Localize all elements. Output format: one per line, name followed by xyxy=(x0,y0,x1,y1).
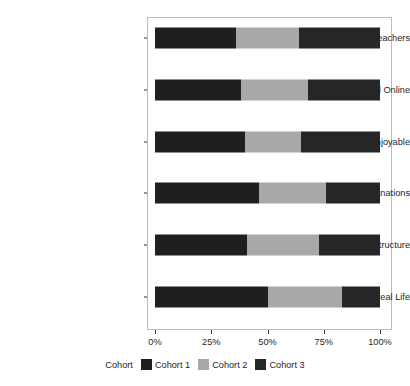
bar-segment xyxy=(241,80,309,101)
bar-row xyxy=(155,28,380,49)
bar-segment xyxy=(155,235,247,256)
y-axis-tick xyxy=(144,90,147,91)
legend-title: Cohort xyxy=(105,360,133,370)
bar-row xyxy=(155,183,380,204)
bar-segment xyxy=(155,28,236,49)
bar-segment xyxy=(155,80,241,101)
bar-segment xyxy=(155,287,268,308)
bar-segment xyxy=(319,235,380,256)
bar-segment xyxy=(342,287,380,308)
bar-segment xyxy=(301,132,380,153)
legend-swatch-icon xyxy=(198,359,209,370)
y-axis-tick xyxy=(144,245,147,246)
bar-segment xyxy=(236,28,299,49)
y-axis-tick xyxy=(144,142,147,143)
legend-item-label: Cohort 1 xyxy=(155,360,190,370)
x-axis-label: 100% xyxy=(368,336,392,348)
bar-row xyxy=(155,132,380,153)
bar-segment xyxy=(259,183,327,204)
bar-segment xyxy=(326,183,380,204)
legend-swatch-icon xyxy=(141,359,152,370)
stacked-bar-chart: Great/Supportive TeachersSupport Off and… xyxy=(0,0,410,386)
chart-legend: Cohort Cohort 1Cohort 2Cohort 3 xyxy=(0,359,410,370)
bar-segment xyxy=(299,28,380,49)
bar-row xyxy=(155,80,380,101)
plot-panel xyxy=(147,17,392,330)
bar-segment xyxy=(155,183,259,204)
x-axis-tick xyxy=(380,330,381,334)
bar-segment xyxy=(308,80,380,101)
x-axis-tick xyxy=(155,330,156,334)
bar-row xyxy=(155,235,380,256)
legend-item[interactable]: Cohort 1 xyxy=(141,359,190,370)
bar-segment xyxy=(268,287,342,308)
legend-item[interactable]: Cohort 3 xyxy=(255,359,304,370)
legend-item-label: Cohort 3 xyxy=(269,360,304,370)
bar-segment xyxy=(245,132,301,153)
y-axis-tick xyxy=(144,193,147,194)
x-axis-tick xyxy=(324,330,325,334)
x-axis-label: 25% xyxy=(202,336,220,348)
y-axis-tick xyxy=(144,297,147,298)
x-axis-tick xyxy=(268,330,269,334)
x-axis-label: 50% xyxy=(258,336,276,348)
legend-items: Cohort 1Cohort 2Cohort 3 xyxy=(141,359,305,370)
bar-segment xyxy=(247,235,319,256)
x-axis-tick xyxy=(211,330,212,334)
legend-swatch-icon xyxy=(255,359,266,370)
legend-item[interactable]: Cohort 2 xyxy=(198,359,247,370)
y-axis-tick xyxy=(144,38,147,39)
bar-segment xyxy=(155,132,245,153)
bar-row xyxy=(155,287,380,308)
legend-item-label: Cohort 2 xyxy=(212,360,247,370)
x-axis-label: 75% xyxy=(315,336,333,348)
x-axis-label: 0% xyxy=(148,336,161,348)
